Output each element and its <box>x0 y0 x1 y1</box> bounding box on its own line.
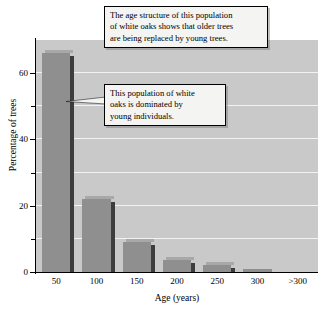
callout-leader-line <box>66 96 106 106</box>
y-axis-title: Percentage of trees <box>8 70 18 200</box>
x-tick-label-gt300: >300 <box>278 276 318 286</box>
bar-150 <box>123 242 151 272</box>
callout-mid-line-3: young individuals. <box>110 111 220 122</box>
bar-series <box>36 40 318 272</box>
bar-250 <box>203 265 231 272</box>
callout-top-line-1: The age structure of this population <box>110 10 262 21</box>
x-tick-label-100: 100 <box>76 276 116 286</box>
callout-age-structure: The age structure of this population of … <box>104 6 268 48</box>
x-tick-label-300: 300 <box>237 276 277 286</box>
y-tick-minor <box>31 173 36 174</box>
chart-figure: 0204060 50100150200250300>300 Age (years… <box>0 0 318 314</box>
y-tick-label: 20 <box>0 201 28 211</box>
bar-200 <box>163 260 191 272</box>
x-tick-label-50: 50 <box>36 276 76 286</box>
callout-young-individuals: This population of white oaks is dominat… <box>104 84 226 126</box>
bar-slot <box>237 40 277 272</box>
bar-slot <box>117 40 157 272</box>
x-axis-line <box>35 272 318 273</box>
callout-top-line-3: are being replaced by young trees. <box>110 33 262 44</box>
y-tick-major <box>30 139 36 140</box>
x-tick-label-250: 250 <box>197 276 237 286</box>
y-tick-major <box>30 272 36 273</box>
bar-slot <box>76 40 116 272</box>
bar-slot <box>36 40 76 272</box>
x-axis-title: Age (years) <box>36 293 318 303</box>
x-tick-label-150: 150 <box>117 276 157 286</box>
bar-100 <box>82 199 110 272</box>
callout-mid-line-2: oaks is dominated by <box>110 99 220 110</box>
callout-top-line-2: of white oaks shows that older trees <box>110 21 262 32</box>
y-tick-label: 0 <box>0 267 28 277</box>
bar-slot <box>157 40 197 272</box>
callout-mid-line-1: This population of white <box>110 88 220 99</box>
x-tick-label-200: 200 <box>157 276 197 286</box>
plot-area <box>36 40 318 272</box>
y-tick-major <box>30 206 36 207</box>
bar-slot <box>278 40 318 272</box>
y-tick-major <box>30 73 36 74</box>
bar-slot <box>197 40 237 272</box>
y-tick-minor <box>31 239 36 240</box>
bar-50 <box>42 53 70 272</box>
y-tick-minor <box>31 106 36 107</box>
